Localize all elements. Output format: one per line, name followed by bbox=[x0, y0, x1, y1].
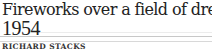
article-year: 1954 bbox=[2, 18, 40, 38]
article-author: RICHARD STACKS bbox=[2, 42, 86, 51]
divider-rule-upper bbox=[40, 32, 212, 33]
